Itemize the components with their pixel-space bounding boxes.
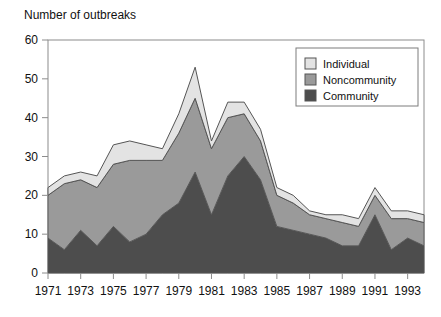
legend-label-individual: Individual	[323, 58, 369, 70]
legend-swatch-community	[305, 90, 316, 101]
legend-label-noncommunity: Noncommunity	[323, 74, 397, 86]
x-tick-label: 1985	[264, 284, 291, 298]
y-tick-label: 10	[25, 227, 39, 241]
stacked-area-plot: 0102030405060 19711973197519771979198119…	[0, 0, 441, 317]
x-tick-label: 1981	[198, 284, 225, 298]
x-tick-label: 1973	[67, 284, 94, 298]
legend-swatch-noncommunity	[305, 74, 316, 85]
y-tick-label: 30	[25, 150, 39, 164]
x-tick-label: 1979	[165, 284, 192, 298]
x-tick-label: 1983	[231, 284, 258, 298]
x-tick-label: 1989	[329, 284, 356, 298]
y-tick-label: 60	[25, 33, 39, 47]
legend-label-community: Community	[323, 90, 379, 102]
legend-swatch-individual	[305, 58, 316, 69]
x-tick-label: 1993	[394, 284, 421, 298]
y-tick-label: 50	[25, 72, 39, 86]
y-tick-label: 0	[31, 266, 38, 280]
y-tick-label: 40	[25, 111, 39, 125]
x-tick-label: 1971	[35, 284, 62, 298]
y-tick-label: 20	[25, 188, 39, 202]
chart-container: Number of outbreaks 0102030405060 197119…	[0, 0, 441, 317]
chart-legend: IndividualNoncommunityCommunity	[296, 48, 418, 106]
x-tick-label: 1975	[100, 284, 127, 298]
x-axis-ticks: 1971197319751977197919811983198519871989…	[35, 273, 422, 298]
x-tick-label: 1991	[362, 284, 389, 298]
y-axis-ticks: 0102030405060	[25, 33, 48, 280]
x-tick-label: 1987	[296, 284, 323, 298]
x-tick-label: 1977	[133, 284, 160, 298]
